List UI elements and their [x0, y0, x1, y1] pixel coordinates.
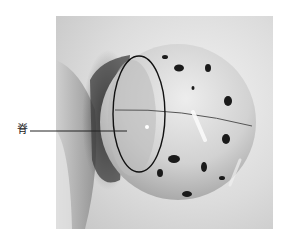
annotation-label: 脊 — [17, 124, 28, 136]
ladybug-photo — [0, 0, 285, 243]
ladybug-figure: 脊 — [0, 0, 285, 243]
